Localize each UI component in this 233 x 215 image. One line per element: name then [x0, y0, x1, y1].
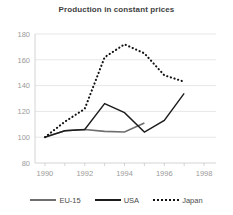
legend-item-japan[interactable]: Japan: [153, 196, 202, 205]
y-tick-label-140: 140: [17, 81, 30, 90]
legend-label-usa: USA: [124, 196, 139, 205]
y-tick-label-80: 80: [22, 159, 30, 168]
x-tick-label-1990: 1990: [37, 169, 54, 178]
legend-swatch-usa: [95, 197, 121, 203]
legend-swatch-japan: [153, 197, 179, 203]
chart-legend: EU-15 USA Japan: [0, 190, 233, 210]
gridline-group: [35, 34, 216, 163]
y-axis-tick-labels: 80100120140160180: [17, 30, 30, 168]
legend-item-usa[interactable]: USA: [95, 196, 139, 205]
legend-label-eu15: EU-15: [59, 196, 80, 205]
x-axis-tickmarks: [45, 163, 204, 166]
y-tick-label-120: 120: [17, 107, 30, 116]
series-line-japan: [45, 44, 184, 137]
x-tick-label-1994: 1994: [116, 169, 133, 178]
plot-area: 80100120140160180 19901992199419961998: [0, 0, 233, 215]
x-tick-label-1998: 1998: [196, 169, 213, 178]
series-line-usa: [45, 93, 184, 137]
legend-item-eu15[interactable]: EU-15: [30, 196, 80, 205]
x-axis-tick-labels: 19901992199419961998: [37, 169, 213, 178]
legend-label-japan: Japan: [182, 196, 202, 205]
chart-container: Production in constant prices 8010012014…: [0, 0, 233, 215]
y-tick-label-100: 100: [17, 133, 30, 142]
y-tick-label-180: 180: [17, 30, 30, 39]
data-series-group: [45, 44, 184, 137]
legend-swatch-eu15: [30, 197, 56, 203]
x-tick-label-1996: 1996: [156, 169, 173, 178]
y-tick-label-160: 160: [17, 56, 30, 65]
x-tick-label-1992: 1992: [76, 169, 93, 178]
